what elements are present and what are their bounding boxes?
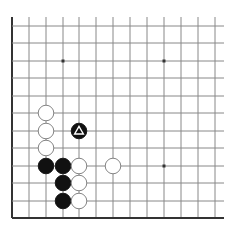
black-stone — [55, 193, 71, 209]
black-stone — [55, 175, 71, 191]
hoshi-point — [62, 60, 65, 63]
black-stone — [55, 158, 71, 174]
white-stone — [71, 175, 87, 191]
hoshi-point — [163, 60, 166, 63]
white-stone — [71, 158, 87, 174]
white-stone — [38, 105, 54, 121]
white-stone — [105, 158, 121, 174]
white-stone — [38, 140, 54, 156]
go-board — [0, 0, 236, 231]
white-stone — [71, 193, 87, 209]
hoshi-point — [163, 165, 166, 168]
black-stone — [38, 158, 54, 174]
white-stone — [38, 123, 54, 139]
